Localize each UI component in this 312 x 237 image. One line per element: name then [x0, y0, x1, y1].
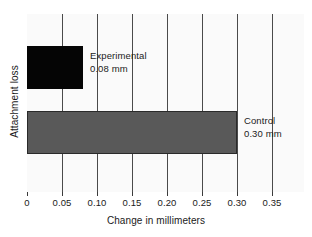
- xtick-mark-0.25: [202, 192, 203, 196]
- xtick-mark-0: [27, 192, 28, 196]
- xtick-label-0: 0: [24, 197, 29, 208]
- xtick-label-0.05: 0.05: [53, 197, 72, 208]
- xtick-label-0.30: 0.30: [228, 197, 247, 208]
- bar-label-control: Control 0.30 mm: [244, 115, 282, 140]
- xtick-mark-0.35: [272, 192, 273, 196]
- xtick-label-0.10: 0.10: [88, 197, 107, 208]
- bar-label-control-value: 0.30 mm: [244, 128, 282, 141]
- bar-label-control-name: Control: [244, 115, 282, 128]
- gridline-0.20: [167, 14, 168, 192]
- xtick-mark-0.05: [62, 192, 63, 196]
- gridline-0.25: [202, 14, 203, 192]
- xtick-label-0.20: 0.20: [158, 197, 177, 208]
- x-axis-title: Change in millimeters: [0, 215, 312, 226]
- bar-experimental: [27, 46, 83, 89]
- bar-chart: Experimental 0.08 mm Control 0.30 mm 0 0…: [0, 0, 312, 237]
- gridline-0.15: [132, 14, 133, 192]
- bar-label-experimental-value: 0.08 mm: [90, 63, 147, 76]
- gridline-0.05: [62, 14, 63, 192]
- xtick-label-0.25: 0.25: [193, 197, 212, 208]
- xtick-mark-0.20: [167, 192, 168, 196]
- gridline-0.35: [272, 14, 273, 192]
- gridline-0.10: [97, 14, 98, 192]
- xtick-label-0.15: 0.15: [123, 197, 142, 208]
- plot-area: Experimental 0.08 mm Control 0.30 mm: [27, 14, 304, 192]
- bar-label-experimental-name: Experimental: [90, 50, 147, 63]
- xtick-mark-0.10: [97, 192, 98, 196]
- xtick-mark-0.15: [132, 192, 133, 196]
- xtick-mark-0.30: [237, 192, 238, 196]
- y-axis-title: Attachment loss: [9, 37, 20, 167]
- gridline-0.30: [237, 14, 238, 192]
- bar-control: [27, 111, 237, 154]
- bar-label-experimental: Experimental 0.08 mm: [90, 50, 147, 75]
- xtick-label-0.35: 0.35: [263, 197, 282, 208]
